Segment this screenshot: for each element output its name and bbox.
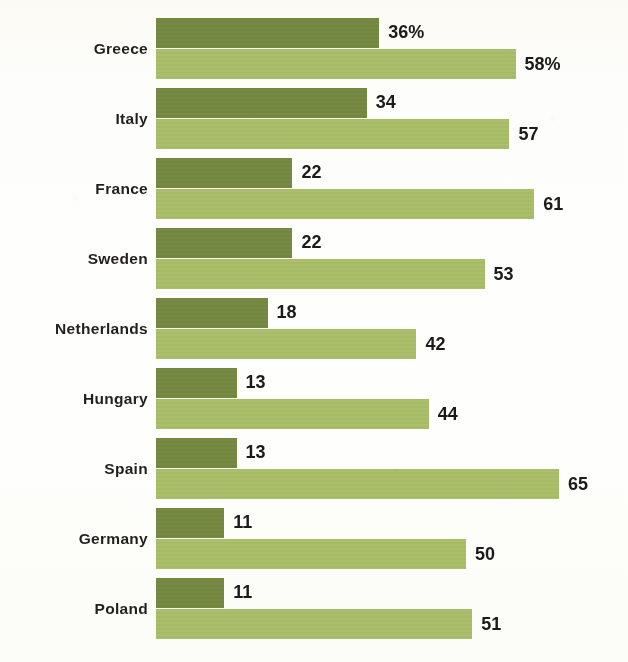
bar-value-dark-spain: 13 (237, 437, 266, 467)
category-label-greece: Greece (0, 18, 148, 80)
chart-row: Greece36%58% (0, 18, 628, 80)
bar-value-dark-france: 22 (292, 157, 321, 187)
category-label-germany: Germany (0, 508, 148, 570)
chart-root: Greece36%58%Italy3457France2261Sweden225… (0, 0, 628, 662)
bar-group: 3457 (156, 88, 628, 150)
bar-dark-greece (156, 18, 379, 48)
bar-value-dark-italy: 34 (367, 87, 396, 117)
bar-value-dark-poland: 11 (224, 577, 252, 607)
bar-dark-sweden (156, 228, 292, 258)
bar-value-light-netherlands: 42 (416, 329, 445, 359)
chart-row: Sweden2253 (0, 228, 628, 290)
bar-value-light-france: 61 (534, 189, 563, 219)
bar-light-germany (156, 539, 466, 569)
bar-light-poland (156, 609, 472, 639)
bar-value-dark-sweden: 22 (292, 227, 321, 257)
bar-light-netherlands (156, 329, 416, 359)
bar-dark-spain (156, 438, 237, 468)
bar-group: 36%58% (156, 18, 628, 80)
bar-dark-italy (156, 88, 367, 118)
bar-value-dark-germany: 11 (224, 507, 252, 537)
bar-dark-netherlands (156, 298, 268, 328)
category-label-spain: Spain (0, 438, 148, 500)
bar-dark-poland (156, 578, 224, 608)
bar-group: 1150 (156, 508, 628, 570)
bar-value-light-italy: 57 (509, 119, 538, 149)
category-label-italy: Italy (0, 88, 148, 150)
bar-group: 1365 (156, 438, 628, 500)
bar-dark-france (156, 158, 292, 188)
bar-light-france (156, 189, 534, 219)
category-label-poland: Poland (0, 578, 148, 640)
bar-group: 2253 (156, 228, 628, 290)
bar-dark-hungary (156, 368, 237, 398)
bar-value-dark-netherlands: 18 (268, 297, 297, 327)
bar-light-italy (156, 119, 509, 149)
bar-group: 1344 (156, 368, 628, 430)
bar-value-dark-hungary: 13 (237, 367, 266, 397)
chart-row: Poland1151 (0, 578, 628, 640)
category-label-hungary: Hungary (0, 368, 148, 430)
bar-light-hungary (156, 399, 429, 429)
category-label-sweden: Sweden (0, 228, 148, 290)
chart-row: Hungary1344 (0, 368, 628, 430)
bar-group: 1151 (156, 578, 628, 640)
bar-group: 2261 (156, 158, 628, 220)
chart-row: Italy3457 (0, 88, 628, 150)
chart-row: France2261 (0, 158, 628, 220)
bar-value-light-greece: 58% (516, 49, 561, 79)
bar-value-dark-greece: 36% (379, 17, 424, 47)
bar-dark-germany (156, 508, 224, 538)
bar-value-light-sweden: 53 (485, 259, 514, 289)
bar-light-spain (156, 469, 559, 499)
bar-value-light-hungary: 44 (429, 399, 458, 429)
category-label-netherlands: Netherlands (0, 298, 148, 360)
bar-group: 1842 (156, 298, 628, 360)
chart-row: Spain1365 (0, 438, 628, 500)
chart-title (70, 0, 530, 8)
bar-value-light-poland: 51 (472, 609, 501, 639)
category-label-france: France (0, 158, 148, 220)
bar-value-light-spain: 65 (559, 469, 588, 499)
chart-row: Germany1150 (0, 508, 628, 570)
bar-light-sweden (156, 259, 485, 289)
bar-value-light-germany: 50 (466, 539, 495, 569)
bar-chart-plot-area: Greece36%58%Italy3457France2261Sweden225… (0, 18, 628, 658)
chart-row: Netherlands1842 (0, 298, 628, 360)
bar-light-greece (156, 49, 516, 79)
